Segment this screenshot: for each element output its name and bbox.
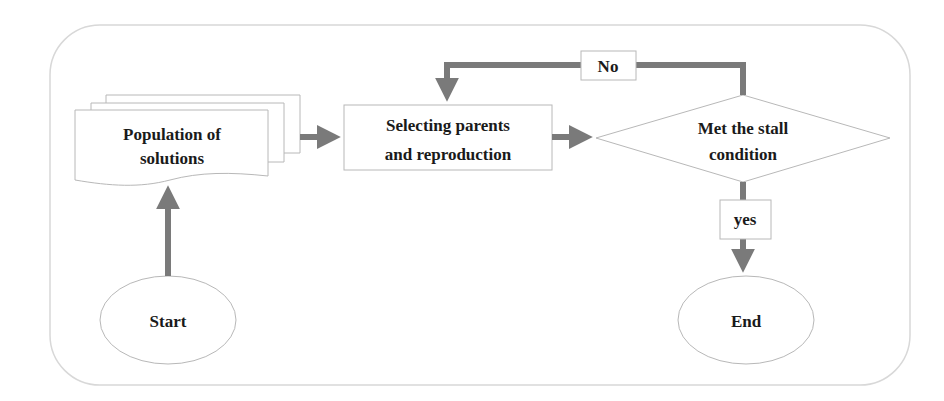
- start-node: Start: [100, 276, 236, 364]
- no-edge-label: No: [581, 51, 636, 80]
- yes-edge-label: yes: [720, 200, 771, 239]
- end-label: End: [731, 312, 762, 331]
- selecting-node: Selecting parents and reproduction: [344, 105, 552, 170]
- end-node: End: [678, 276, 814, 364]
- selecting-label-2: and reproduction: [385, 145, 512, 164]
- no-label: No: [598, 57, 619, 76]
- condition-label-1: Met the stall: [698, 119, 789, 138]
- selecting-label-1: Selecting parents: [386, 116, 510, 135]
- population-label-1: Population of: [123, 125, 221, 144]
- population-node: Population of solutions: [75, 95, 300, 185]
- flowchart-canvas: Population of solutions Selecting parent…: [0, 0, 944, 401]
- start-label: Start: [150, 312, 187, 331]
- condition-node: Met the stall condition: [596, 95, 890, 182]
- population-label-2: solutions: [140, 149, 205, 168]
- condition-label-2: condition: [709, 145, 778, 164]
- yes-label: yes: [734, 210, 757, 229]
